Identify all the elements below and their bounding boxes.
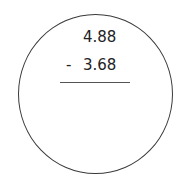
subtrahend: 3.68 xyxy=(83,58,116,73)
minuend: 4.88 xyxy=(83,30,116,45)
minus-sign: - xyxy=(66,58,71,73)
answer-line xyxy=(60,82,130,83)
